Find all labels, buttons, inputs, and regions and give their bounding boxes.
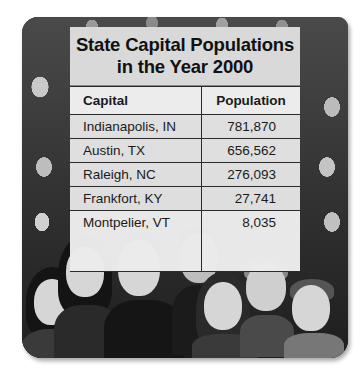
capital-cell: Montpelier, VT xyxy=(70,211,202,272)
table-row: Raleigh, NC 276,093 xyxy=(70,163,300,187)
population-cell: 8,035 xyxy=(202,211,301,272)
population-cell: 781,870 xyxy=(202,115,301,139)
population-table: Capital Population Indianapolis, IN 781,… xyxy=(70,86,300,272)
capital-cell: Indianapolis, IN xyxy=(70,115,202,139)
table-row: Indianapolis, IN 781,870 xyxy=(70,115,300,139)
capital-cell: Raleigh, NC xyxy=(70,163,202,187)
title-line-2: in the Year 2000 xyxy=(117,56,253,78)
data-card: State Capital Populations in the Year 20… xyxy=(70,27,300,272)
table-header-row: Capital Population xyxy=(70,87,300,115)
capital-cell: Frankfort, KY xyxy=(70,187,202,211)
capital-cell: Austin, TX xyxy=(70,139,202,163)
population-cell: 276,093 xyxy=(202,163,301,187)
population-cell: 27,741 xyxy=(202,187,301,211)
table-row: Frankfort, KY 27,741 xyxy=(70,187,300,211)
person-7 xyxy=(284,279,344,358)
column-header-capital: Capital xyxy=(70,87,202,115)
column-header-population: Population xyxy=(202,87,301,115)
table-row: Montpelier, VT 8,035 xyxy=(70,211,300,272)
title-band: State Capital Populations in the Year 20… xyxy=(70,27,300,86)
title-line-1: State Capital Populations xyxy=(76,34,294,56)
table-row: Austin, TX 656,562 xyxy=(70,139,300,163)
population-cell: 656,562 xyxy=(202,139,301,163)
